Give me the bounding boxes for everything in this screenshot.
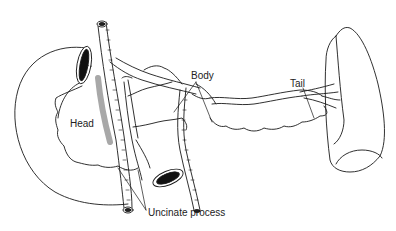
leader-body-2 xyxy=(196,82,212,122)
bile-duct-shading xyxy=(98,78,110,142)
label-head: Head xyxy=(70,118,94,129)
diagram-drawing xyxy=(0,0,396,231)
label-tail: Tail xyxy=(290,78,305,89)
leader-tail xyxy=(303,88,314,118)
pancreas-diagram: Head Body Tail Uncinate process xyxy=(0,0,396,231)
label-uncinate-process: Uncinate process xyxy=(148,207,225,218)
label-body: Body xyxy=(191,70,214,81)
pancreas-body-tail xyxy=(210,106,327,131)
leader-body-1 xyxy=(174,82,196,112)
